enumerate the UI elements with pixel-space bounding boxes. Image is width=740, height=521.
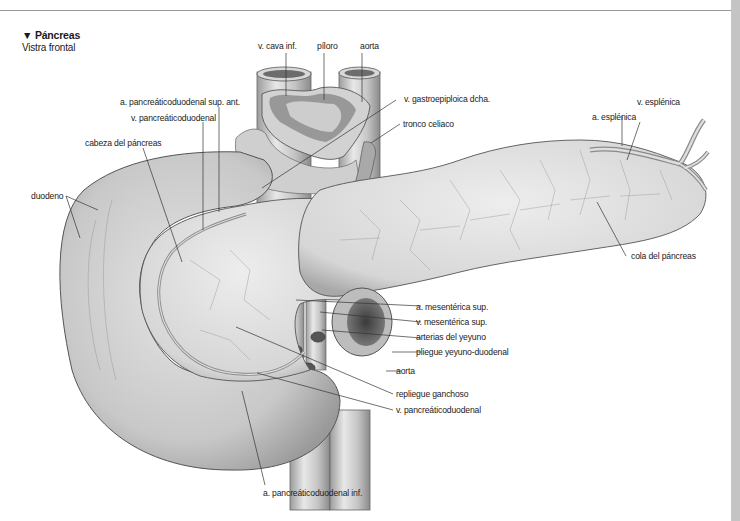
pancreas-illustration xyxy=(0,0,731,521)
label-duodeno: duodeno xyxy=(31,191,63,201)
label-v-pancreaticoduodenal-top: v. pancreáticoduodenal xyxy=(131,113,216,123)
label-v-mesenterica-sup: v. mesentérica sup. xyxy=(416,317,487,327)
page-edge-bar xyxy=(731,0,740,521)
label-a-mesenterica-sup: a. mesentérica sup. xyxy=(416,302,488,312)
label-a-esplenica: a. esplénica xyxy=(592,112,636,122)
label-aorta-bottom: aorta xyxy=(396,366,415,376)
label-v-cava-inf: v. cava inf. xyxy=(258,41,297,51)
label-cabeza-del-pancreas: cabeza del páncreas xyxy=(85,138,161,148)
label-a-pancreaticoduodenal-inf: a. pancreáticoduodenal inf. xyxy=(263,488,362,498)
label-repliegue-ganchoso: repliegue ganchoso xyxy=(396,389,468,399)
label-aorta-top: aorta xyxy=(360,41,379,51)
label-v-pancreaticoduodenal-bottom: v. pancreáticoduodenal xyxy=(396,405,481,415)
mesenteric-ring xyxy=(332,288,392,356)
label-cola-del-pancreas: cola del páncreas xyxy=(631,251,696,261)
label-pliegue-yeyuno-duodenal: pliegue yeyuno-duodenal xyxy=(416,347,509,357)
label-a-pancreaticoduodenal-sup-ant: a. pancreáticoduodenal sup. ant. xyxy=(120,97,240,107)
label-v-esplenica: v. esplénica xyxy=(637,97,680,107)
label-v-gastroepiploica-dcha: v. gastroepiploica dcha. xyxy=(404,94,490,104)
label-piloro: píloro xyxy=(317,41,338,51)
label-tronco-celiaco: tronco celiaco xyxy=(403,119,454,129)
label-arterias-del-yeyuno: arterias del yeyuno xyxy=(416,332,486,342)
